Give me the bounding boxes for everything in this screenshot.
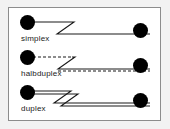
simplex-label: simplex [21, 34, 50, 43]
diagram-row-simplex: simplex [9, 10, 162, 48]
halbduplex-right-node [133, 58, 148, 73]
duplex-left-node [20, 85, 35, 100]
duplex-channel-two-path [28, 94, 150, 106]
halbduplex-left-node [20, 50, 35, 65]
halbduplex-label: halbduplex [21, 69, 62, 78]
diagram-row-duplex: duplex [9, 80, 162, 118]
duplex-label: duplex [21, 104, 46, 113]
diagram-canvas: simplex halbduplex [0, 0, 170, 129]
diagram-row-halbduplex: halbduplex [9, 45, 162, 83]
simplex-left-node [20, 15, 35, 30]
diagram-frame: simplex halbduplex [8, 7, 161, 121]
simplex-right-node [133, 23, 148, 38]
duplex-right-node [133, 93, 148, 108]
duplex-channel-one-path [28, 91, 150, 103]
simplex-signal-path [28, 22, 150, 34]
